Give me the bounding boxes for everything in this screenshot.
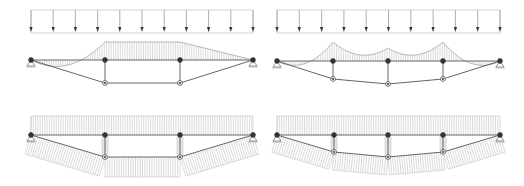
truss-node-icon: [29, 133, 34, 138]
axial-hatch: [70, 148, 76, 167]
axial-hatch: [315, 148, 320, 165]
truss-node-center: [104, 82, 106, 84]
load-arrow-head-icon: [251, 27, 254, 32]
truss-node-icon: [275, 59, 280, 64]
panel-bottom-left: [25, 116, 258, 177]
truss-node-icon: [498, 59, 503, 64]
axial-hatch: [215, 146, 221, 165]
truss-node-icon: [178, 133, 183, 138]
load-arrow-head-icon: [342, 27, 345, 32]
axial-hatch: [346, 153, 348, 171]
truss-node-icon: [498, 133, 503, 138]
axial-hatch: [342, 153, 344, 171]
truss-diagram-figure: [0, 0, 524, 186]
truss-node-center: [179, 156, 181, 158]
axial-hatch: [406, 155, 408, 173]
load-arrow-head-icon: [74, 27, 77, 32]
axial-hatch: [454, 149, 459, 166]
axial-outline: [332, 170, 386, 175]
axial-hatch: [202, 150, 208, 169]
axial-hatch: [420, 154, 422, 172]
axial-hatch: [238, 140, 244, 159]
axial-hatch: [198, 152, 204, 171]
axial-hatch: [363, 155, 365, 173]
axial-hatch: [365, 155, 367, 173]
load-arrow-head-icon: [387, 27, 390, 32]
axial-hatch: [50, 142, 56, 161]
panel-bottom-right: [272, 116, 505, 175]
axial-hatch: [450, 150, 455, 167]
load-arrow-head-icon: [275, 27, 278, 32]
truss-node-center: [332, 78, 334, 80]
axial-hatch: [180, 157, 186, 176]
axial-hatch: [66, 147, 72, 166]
axial-hatch: [432, 153, 434, 171]
axial-hatch: [349, 154, 351, 172]
axial-hatch: [297, 142, 302, 159]
axial-hatch: [231, 142, 237, 161]
axial-outline: [272, 152, 329, 169]
truss-node-center: [442, 78, 444, 80]
axial-hatch: [416, 155, 418, 173]
axial-hatch: [290, 140, 295, 157]
axial-hatch: [448, 151, 453, 168]
axial-hatch: [88, 154, 94, 173]
axial-hatch: [356, 154, 358, 172]
truss-node-icon: [275, 133, 280, 138]
axial-hatch: [379, 156, 381, 174]
panel-top-left: [26, 10, 258, 85]
load-arrow-head-icon: [476, 27, 479, 32]
axial-hatch: [233, 141, 239, 160]
axial-hatch: [226, 143, 232, 162]
load-arrow-head-icon: [409, 27, 412, 32]
axial-hatch: [372, 156, 374, 174]
axial-hatch: [222, 144, 228, 163]
axial-hatch: [475, 142, 480, 159]
load-arrow-head-icon: [229, 27, 232, 32]
axial-hatch: [292, 141, 297, 158]
axial-hatch: [459, 147, 464, 164]
axial-hatch: [79, 151, 85, 170]
axial-hatch: [322, 150, 327, 167]
axial-hatch: [402, 156, 404, 174]
axial-hatch: [390, 157, 392, 175]
axial-hatch: [382, 157, 384, 175]
load-arrow-head-icon: [298, 27, 301, 32]
axial-hatch: [422, 154, 424, 172]
axial-hatch: [484, 140, 489, 157]
load-arrow-head-icon: [498, 27, 501, 32]
axial-hatch: [395, 156, 397, 174]
axial-hatch: [72, 149, 78, 168]
axial-hatch: [313, 147, 318, 164]
load-arrow-head-icon: [163, 27, 166, 32]
axial-hatch: [57, 144, 63, 163]
truss-node-center: [442, 151, 444, 153]
axial-hatch: [61, 146, 67, 165]
axial-hatch: [242, 138, 248, 157]
axial-hatch: [445, 151, 450, 168]
truss-node-icon: [386, 59, 391, 64]
axial-hatch: [99, 157, 105, 176]
axial-hatch: [344, 153, 346, 171]
axial-hatch: [479, 141, 484, 158]
axial-hatch: [438, 152, 440, 170]
axial-hatch: [418, 154, 420, 172]
axial-hatch: [370, 155, 372, 173]
axial-hatch: [86, 153, 92, 172]
axial-hatch: [306, 145, 311, 162]
axial-hatch: [466, 145, 471, 162]
axial-hatch: [235, 140, 241, 159]
axial-hatch: [95, 156, 101, 175]
axial-hatch: [48, 142, 54, 161]
axial-hatch: [320, 149, 325, 166]
axial-hatch: [473, 143, 478, 160]
axial-hatch: [468, 145, 473, 162]
axial-hatch: [224, 144, 230, 163]
axial-hatch: [184, 156, 190, 175]
axial-hatch: [429, 153, 431, 171]
axial-hatch: [213, 147, 219, 166]
truss-node-icon: [103, 133, 108, 138]
axial-hatch: [97, 156, 103, 175]
axial-hatch: [351, 154, 353, 172]
axial-hatch: [411, 155, 413, 173]
